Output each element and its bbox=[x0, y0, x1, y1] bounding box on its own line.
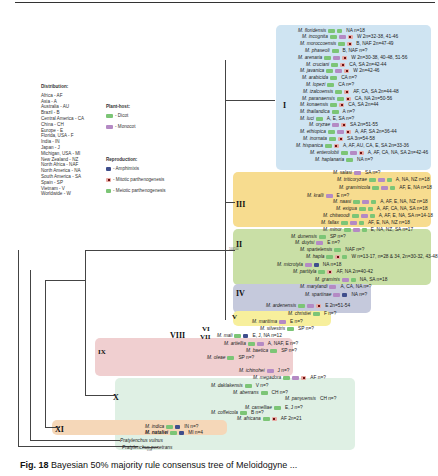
taxon-distribution-karyotype: W n=13-17, n=28 & 34, 2n=30-32, 43-48 bbox=[351, 254, 437, 259]
monocot-leaf-icon bbox=[292, 376, 299, 380]
taxon-row: M. thailandicaA n=? bbox=[300, 109, 355, 114]
taxon-name: M. aberrans bbox=[233, 390, 259, 395]
taxon-name: M. arenaria bbox=[298, 55, 322, 60]
caption-text: Bayesian 50% majority rule consensus tre… bbox=[51, 460, 297, 470]
taxon-distribution-karyotype: NA n=? bbox=[351, 292, 367, 297]
taxon-row: M. silvestrisSP n=? bbox=[260, 326, 314, 331]
dicot-leaf-icon bbox=[234, 334, 241, 338]
dicot-leaf-icon bbox=[287, 327, 294, 331]
meiotic-parthenogenesis-icon bbox=[362, 228, 367, 232]
taxon-row: M. baeticaSP n=? bbox=[246, 348, 297, 353]
taxon-name: M. mali bbox=[217, 333, 232, 338]
monocot-leaf-icon bbox=[326, 194, 333, 198]
taxon-row: M. graminisNA, SA n=18 bbox=[315, 277, 387, 282]
taxon-row: M. maliE, J, NA n=12 bbox=[217, 333, 282, 338]
dicot-leaf-icon bbox=[166, 425, 173, 429]
taxon-distribution-karyotype: AF, E, NA n=18 bbox=[399, 185, 432, 190]
taxon-name: M. floridensis bbox=[298, 28, 326, 33]
dicot-leaf-icon bbox=[332, 49, 339, 53]
taxon-distribution-karyotype: SP n=? bbox=[298, 326, 314, 331]
legend-plant-host: Plant-host: - Dicot - Monocot bbox=[106, 104, 135, 135]
dicot-leaf-icon bbox=[283, 376, 290, 380]
taxon-row: M. arabicidaCA n=? bbox=[302, 75, 357, 80]
taxon-row: M. spartelensisNAF n=? bbox=[300, 247, 364, 252]
meiotic-parthenogenesis-icon bbox=[387, 178, 392, 182]
taxon-distribution-karyotype: CH n=? bbox=[272, 390, 288, 395]
taxon-distribution-karyotype: B n=? bbox=[251, 410, 264, 415]
legend-dicot: - Dicot bbox=[106, 113, 135, 118]
mitotic-parthenogenesis-icon bbox=[338, 137, 343, 141]
mitotic-parthenogenesis-icon bbox=[348, 35, 353, 39]
dicot-leaf-icon bbox=[344, 228, 351, 232]
taxon-distribution-karyotype: NA n=? bbox=[357, 157, 373, 162]
dicot-leaf-icon bbox=[248, 342, 255, 346]
legend-monocot: - Monocot bbox=[106, 124, 135, 129]
taxon-name: M. inornata bbox=[303, 136, 327, 141]
taxon-name: M. oryzae bbox=[309, 122, 330, 127]
mitotic-parthenogenesis-icon bbox=[346, 130, 351, 134]
taxon-row: M. oleaeSP n=? bbox=[207, 355, 254, 360]
taxon-name: M. maritima bbox=[252, 319, 277, 324]
taxon-distribution-karyotype: A, E, SA n=? bbox=[327, 116, 354, 121]
taxon-distribution-karyotype: E n=? bbox=[337, 193, 350, 198]
taxon-row: M. partitylaAF, NA 2n=40-42 bbox=[293, 269, 373, 274]
support-value: 100/100 bbox=[229, 248, 238, 251]
dicot-leaf-icon bbox=[332, 110, 339, 114]
branch-upper bbox=[85, 250, 225, 251]
taxon-row: M. crucianiCA, SA 2n=42-44 bbox=[306, 62, 386, 67]
taxon-row: M. triticoryzaeA, NA, NZ n=18 bbox=[337, 177, 430, 182]
taxon-distribution-karyotype: A, NA, NZ n=18 bbox=[396, 177, 430, 182]
taxon-distribution-karyotype: CA, SA 2n=42-44 bbox=[349, 62, 386, 67]
taxon-distribution-karyotype: A, NAF, E n=? bbox=[268, 341, 298, 346]
mitotic-parthenogenesis-icon bbox=[341, 123, 346, 127]
taxon-name: M. chitwoodi bbox=[323, 213, 350, 218]
meiotic-parthenogenesis-icon bbox=[368, 207, 373, 211]
taxon-row: M. haplanariaNA n=? bbox=[315, 157, 373, 162]
dicot-leaf-icon bbox=[313, 312, 320, 316]
dicot-leaf-icon bbox=[325, 144, 332, 148]
taxon-name: M. graminis bbox=[315, 277, 340, 282]
mitotic-parthenogenesis-icon bbox=[347, 42, 352, 46]
figure-caption: Fig. 18 Bayesian 50% majority rule conse… bbox=[20, 460, 435, 470]
taxon-row: M. salasiSA n=? bbox=[333, 170, 381, 175]
dicot-leaf-icon bbox=[359, 207, 366, 211]
taxon-row: M. paranaensisCA, NA 2n=50-56 bbox=[302, 96, 392, 101]
monocot-leaf-icon bbox=[350, 221, 357, 225]
monocot-leaf-icon bbox=[316, 241, 323, 245]
amphimixis-icon bbox=[342, 293, 347, 297]
taxon-row: M. duytsiE n=? bbox=[295, 240, 340, 245]
distribution-item: Worldwide - W bbox=[41, 191, 84, 197]
monocot-leaf-icon bbox=[353, 228, 360, 232]
clade-label-IX: IX bbox=[98, 348, 106, 356]
legend-reproduction: Reproduction: - Amphimixis - Mitotic par… bbox=[106, 157, 166, 199]
legend-monocot-label: - Monocot bbox=[115, 124, 135, 129]
meiotic-parthenogenesis-icon bbox=[342, 255, 347, 259]
dicot-leaf-icon bbox=[316, 117, 323, 121]
monocot-leaf-icon bbox=[339, 35, 346, 39]
dicot-leaf-icon bbox=[319, 235, 326, 239]
taxon-row: M. konaensisCA, SA 2n=44 bbox=[300, 102, 379, 107]
legend-plant-host-title: Plant-host: bbox=[106, 104, 135, 109]
taxon-distribution-karyotype: E, J n=? bbox=[285, 405, 303, 410]
taxon-distribution-karyotype: CA, NA 2n=50-56 bbox=[355, 96, 392, 101]
mitotic-parthenogenesis-icon bbox=[359, 151, 364, 155]
root-branch bbox=[18, 250, 19, 446]
monocot-leaf-icon bbox=[378, 178, 385, 182]
taxon-name: M. megadora bbox=[253, 375, 281, 380]
taxon-row: M. graminicolaAF, E, NA n=18 bbox=[339, 185, 432, 190]
meiotic-parthenogenesis-icon bbox=[351, 278, 356, 282]
taxon-distribution-karyotype: IN n=? bbox=[184, 424, 198, 429]
taxon-row: M. arenariaW 2n=30-38, 40-48, 51-56 bbox=[298, 55, 407, 60]
dicot-leaf-icon bbox=[327, 83, 334, 87]
taxon-distribution-karyotype: E n=? bbox=[290, 319, 303, 324]
taxon-distribution-karyotype: CH n=? bbox=[320, 396, 336, 401]
mitotic-parthenogenesis-icon bbox=[346, 97, 351, 101]
taxon-name: M. marylandi bbox=[300, 284, 327, 289]
taxon-name: M. konaensis bbox=[300, 102, 328, 107]
taxon-distribution-karyotype: AF, CA, SA 2n=44-48 bbox=[353, 89, 398, 94]
taxon-row: M. naasiA, AF, E, NA, NZ n=18 bbox=[333, 199, 428, 204]
taxon-distribution-karyotype: A, AF, CA, NA, SA n=18 bbox=[377, 206, 428, 211]
clade-label-IV: IV bbox=[236, 289, 245, 298]
branch-clade-III bbox=[225, 202, 235, 203]
taxon-row: M. artielliaA, NAF, E n=? bbox=[224, 341, 298, 346]
